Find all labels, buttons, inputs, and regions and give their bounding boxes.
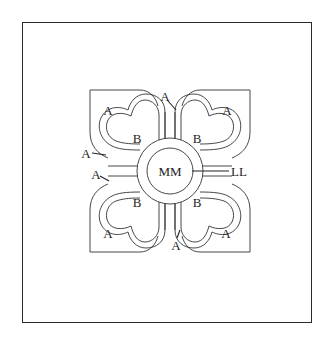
label-leaf-top-right: A (222, 103, 232, 118)
callout-left-upper-a: A (81, 146, 91, 161)
label-leaf-top-left: A (103, 103, 113, 118)
leader-bottom (177, 230, 180, 238)
label-leaf-bottom-right: A (221, 226, 231, 241)
callout-bottom-a: A (171, 238, 181, 253)
callout-top-a: A (160, 89, 170, 104)
label-center-mm: MM (158, 164, 182, 179)
label-petal-top-left: B (133, 131, 142, 146)
label-leaf-bottom-left: A (103, 226, 113, 241)
label-petal-top-right: B (193, 131, 202, 146)
label-petal-bottom-right: B (193, 195, 202, 210)
callout-left-lower-a: A (91, 167, 101, 182)
label-petal-bottom-left: B (133, 195, 142, 210)
leader-left-lower (100, 176, 109, 181)
flower-diagram: MM LL A B A B B A B A A A A A (0, 0, 333, 340)
label-ll: LL (231, 164, 247, 179)
